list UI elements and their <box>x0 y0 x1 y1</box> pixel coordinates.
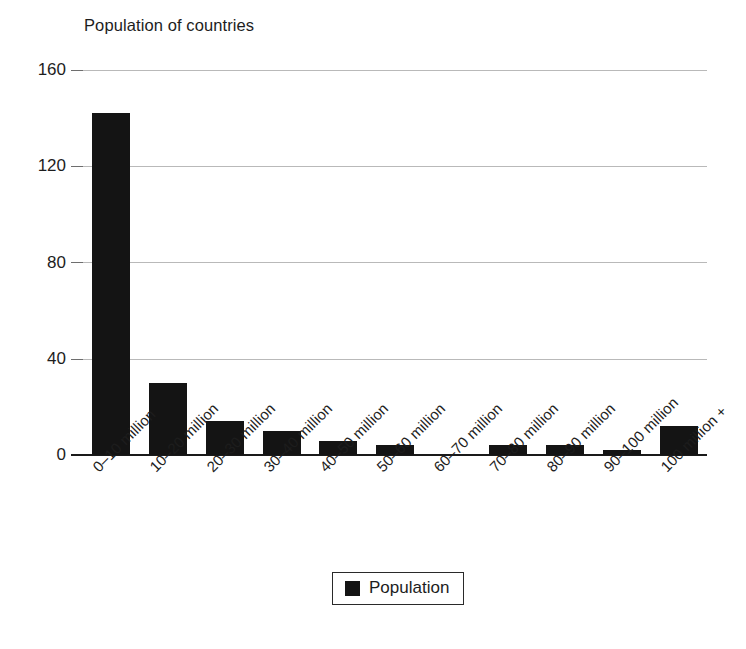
y-axis: 160 120 80 40 0 <box>0 70 66 455</box>
bar <box>92 113 130 455</box>
y-tick-label: 0 <box>57 445 66 465</box>
y-tick-label: 120 <box>38 156 66 176</box>
tick-stub <box>71 454 83 456</box>
plot-area <box>83 70 707 455</box>
tick-stub <box>71 359 83 360</box>
tick-stub <box>71 166 83 167</box>
x-axis: 0–10 million10–20 million20–30 million30… <box>83 455 707 565</box>
legend-swatch-icon <box>345 581 360 596</box>
gridline-40 <box>83 359 707 360</box>
legend-label: Population <box>369 578 449 598</box>
gridline-80 <box>83 262 707 263</box>
gridline-160 <box>83 70 707 71</box>
tick-stub <box>71 262 83 263</box>
tick-stub <box>71 70 83 71</box>
bar-chart: Population of countries 160 120 80 40 0 … <box>0 0 746 649</box>
y-tick-label: 40 <box>47 349 66 369</box>
chart-legend: Population <box>332 572 464 605</box>
gridline-120 <box>83 166 707 167</box>
chart-title: Population of countries <box>84 16 254 35</box>
y-tick-label: 80 <box>47 253 66 273</box>
y-tick-label: 160 <box>38 60 66 80</box>
